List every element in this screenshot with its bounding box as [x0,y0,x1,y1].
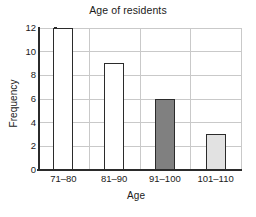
x-axis-line [37,169,242,171]
bar-chart: Age of residents Frequency 024681012 71–… [0,0,256,217]
gridline-vertical [89,28,90,170]
y-tick-label: 10 [20,47,36,57]
x-tick-label: 101–110 [190,173,241,185]
y-tick-label: 2 [20,141,36,151]
y-tick-label: 0 [20,165,36,175]
x-axis-label: Age [30,190,242,201]
y-tick-label: 4 [20,118,36,128]
x-tick-label: 81–90 [89,173,140,185]
y-tick-label: 12 [20,23,36,33]
bar [206,134,226,170]
gridline-vertical [241,28,242,170]
gridline-vertical [190,28,191,170]
y-axis-label-text: Frequency [8,79,19,127]
x-tick-label: 91–100 [140,173,191,185]
x-axis-ticks: 71–8081–9091–100101–110 [38,173,241,187]
gridline-vertical [140,28,141,170]
x-tick-label: 71–80 [38,173,89,185]
bar [53,28,73,170]
chart-title: Age of residents [0,4,256,17]
y-axis-line [38,27,40,171]
bar [104,63,124,170]
bar [155,99,175,170]
y-tick-label: 6 [20,94,36,104]
plot-area [38,28,241,170]
y-axis-ticks: 024681012 [18,28,36,170]
y-tick-label: 8 [20,70,36,80]
